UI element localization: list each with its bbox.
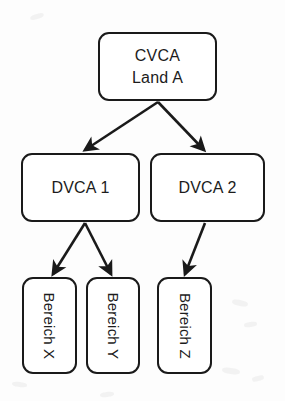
node-dvca2-label: DVCA 2: [178, 177, 236, 198]
node-dvca2[interactable]: DVCA 2: [150, 153, 265, 222]
node-bereich-x[interactable]: Bereich X: [22, 277, 77, 374]
edge-dvca1-to-bereich-x: [53, 223, 85, 274]
edge-cvca-to-dvca2: [158, 102, 204, 150]
node-cvca[interactable]: CVCA Land A: [98, 32, 217, 101]
node-cvca-label: CVCA Land A: [132, 45, 183, 87]
node-bereich-x-label: Bereich X: [40, 292, 60, 359]
node-dvca1[interactable]: DVCA 1: [21, 153, 140, 222]
edge-dvca2-to-bereich-z: [185, 223, 205, 274]
node-bereich-y-label: Bereich Y: [103, 292, 123, 359]
node-bereich-z-label: Bereich Z: [175, 292, 195, 358]
node-bereich-z[interactable]: Bereich Z: [157, 277, 212, 374]
node-bereich-y[interactable]: Bereich Y: [86, 277, 140, 374]
diagram-canvas: CVCA Land A DVCA 1 DVCA 2 Bereich X Bere…: [0, 0, 285, 401]
edge-dvca1-to-bereich-y: [85, 223, 111, 274]
node-dvca1-label: DVCA 1: [51, 177, 109, 198]
edge-cvca-to-dvca1: [85, 102, 158, 150]
